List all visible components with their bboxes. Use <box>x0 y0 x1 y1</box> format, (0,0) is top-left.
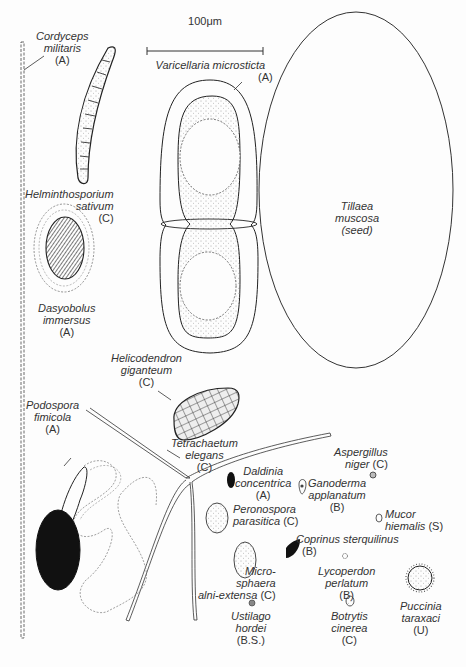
label-tetrachaetum-elegans: Tetrachaetumelegans(C) <box>171 437 238 473</box>
label-microsphaera-alni-extensa: Micro-sphaeraalni-extensa (C) <box>198 565 276 601</box>
label-daldinia-concentrica: Daldiniaconcentrica(A) <box>235 465 291 501</box>
label-ganoderma-applanatum: Ganodermaapplanatum(B) <box>308 477 366 513</box>
tillaea-muscosa-seed <box>259 12 453 368</box>
label-coprinus-sterquilinus: Coprinus sterquilinus(B) <box>296 533 399 557</box>
label-botrytis-cinerea: Botrytiscinerea(C) <box>331 610 368 646</box>
peronospora-parasitica-conidium <box>206 503 228 533</box>
label-aspergillus-niger: Aspergillusniger (C) <box>334 446 388 470</box>
label-varicellaria-microsticta: Varicellaria microsticta(A) <box>148 59 273 83</box>
aspergillus-niger-spore <box>370 472 376 478</box>
label-tillaea-muscosa: Tillaeamuscosa(seed) <box>335 200 379 236</box>
puccinia-taraxaci-urediniospore <box>406 564 434 592</box>
varicellaria-microsticta-spore <box>160 80 258 353</box>
label-peronospora-parasitica: Peronosporaparasitica (C) <box>233 503 298 527</box>
curved-septate-spore <box>76 47 115 184</box>
daldinia-concentrica-spore <box>227 472 235 488</box>
scale-bar <box>147 47 263 55</box>
label-cordyceps-militaris: Cordycepsmilitaris(A) <box>36 30 89 66</box>
label-podospora-fimicola: Podosporafimicola(A) <box>26 399 79 435</box>
ganoderma-applanatum-spore <box>299 480 306 495</box>
podospora-fimicola-ascospore <box>36 458 157 613</box>
label-ustilago-hordei: Ustilagohordei(B.S.) <box>231 610 271 646</box>
label-dasyobolus-immersus: Dasyobolusimmersus(A) <box>38 302 95 338</box>
label-helicodendron-giganteum: Helicodendrongiganteum(C) <box>111 352 182 388</box>
label-helminthosporium-sativum: Helminthosporiumsativum(C) <box>25 188 114 224</box>
label-puccinia-taraxaci: Pucciniataraxaci(U) <box>400 600 442 636</box>
label-lycoperdon-perlatum: Lycoperdonperlatum(B) <box>318 565 375 601</box>
spore-size-diagram: 100μm Cordycepsmilitaris(A) Varicellaria… <box>0 0 466 667</box>
label-mucor-hiemalis: Mucorhiemalis (S) <box>385 508 443 532</box>
helicodendron-giganteum-conidium <box>158 388 239 440</box>
mucor-hiemalis-spore <box>376 514 382 522</box>
scale-bar-label: 100μm <box>147 15 263 27</box>
